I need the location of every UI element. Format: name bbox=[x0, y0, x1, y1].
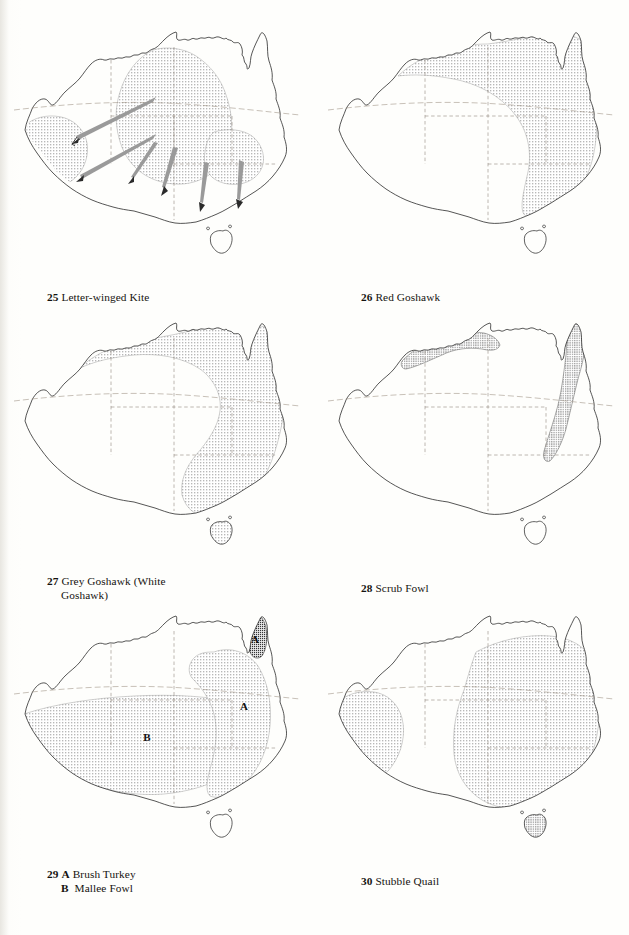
distribution-shading-26 bbox=[398, 34, 598, 217]
tasmania-30 bbox=[521, 809, 546, 837]
map-figure-29: A A B 29 A Brush TurkeyB Mallee Fowl bbox=[0, 590, 314, 901]
map-title-30: Stubble Quail bbox=[375, 875, 439, 887]
map-caption-30: 30 Stubble Quail bbox=[361, 875, 439, 889]
map-title-29-a: Brush Turkey bbox=[73, 868, 136, 880]
region-label-A-capeyork: A bbox=[251, 633, 259, 645]
distribution-shading-27 bbox=[78, 323, 287, 517]
region-label-A-east: A bbox=[240, 700, 248, 712]
map-figure-28: 28 Scrub Fowl bbox=[314, 297, 628, 608]
map-plate-grid: 25 Letter-winged Kite bbox=[0, 0, 629, 935]
map-number-27: 27 bbox=[47, 575, 59, 587]
distribution-shading-28 bbox=[401, 324, 585, 462]
map-26-drawing bbox=[328, 12, 614, 262]
map-figure-26: 26 Red Goshawk bbox=[314, 6, 628, 317]
map-title-27-line1: Grey Goshawk (White bbox=[61, 575, 165, 587]
map-29-drawing: A A B bbox=[14, 596, 300, 846]
map-figure-25: 25 Letter-winged Kite bbox=[0, 6, 314, 317]
tasmania-29 bbox=[207, 809, 232, 837]
distribution-shading-30-east bbox=[453, 636, 600, 810]
map-25-drawing bbox=[14, 12, 300, 262]
tasmania-26 bbox=[521, 225, 546, 253]
map-28-drawing bbox=[328, 303, 614, 553]
map-30-drawing bbox=[328, 596, 614, 846]
tasmania-25 bbox=[207, 225, 232, 253]
map-29-sublabel-A: A bbox=[61, 868, 69, 880]
distribution-shading-30-southwest bbox=[333, 692, 404, 787]
tasmania-27 bbox=[207, 516, 232, 544]
map-title-29-b: B Mallee Fowl bbox=[47, 882, 136, 896]
map-number-29: 29 bbox=[47, 868, 59, 880]
tasmania-28 bbox=[521, 516, 546, 544]
map-figure-30: 30 Stubble Quail bbox=[314, 590, 628, 901]
map-27-drawing bbox=[14, 303, 300, 553]
distribution-shading-25 bbox=[21, 48, 264, 189]
map-number-30: 30 bbox=[361, 875, 373, 887]
map-caption-29: 29 A Brush TurkeyB Mallee Fowl bbox=[47, 868, 136, 895]
map-figure-27: 27 Grey Goshawk (WhiteGoshawk) bbox=[0, 297, 314, 608]
region-label-B-south: B bbox=[143, 731, 151, 743]
